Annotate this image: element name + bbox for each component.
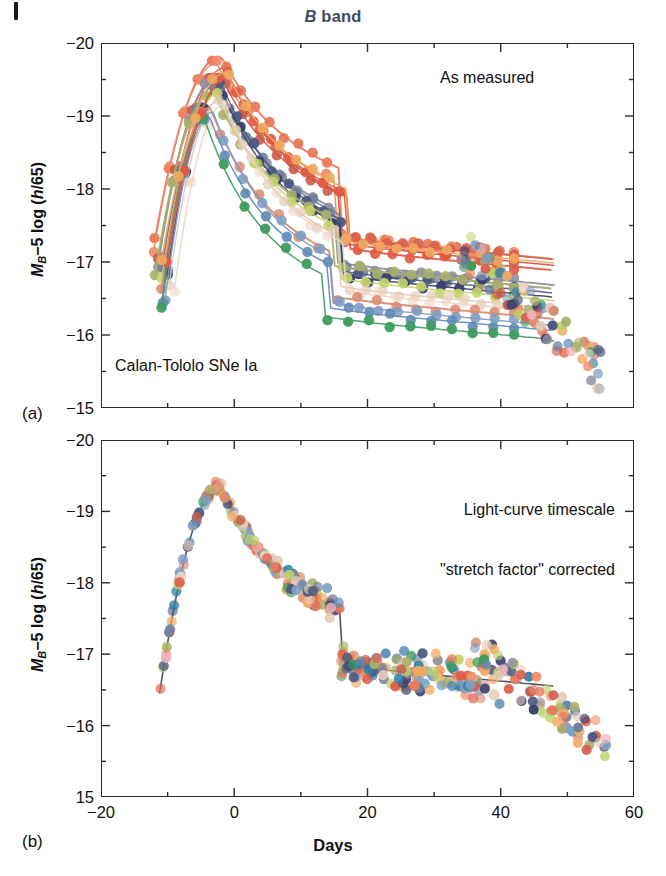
y-tick-label-a: −16 <box>39 326 94 345</box>
figure-title-band-letter: B <box>304 7 316 25</box>
y-tick-label-b: −17 <box>39 645 94 664</box>
panel-a-subtitle: Calan-Tololo SNe Ia <box>115 356 257 376</box>
y-tick-label-a: −19 <box>39 107 94 126</box>
y-axis-title-mid-b: −5 log ( <box>29 594 46 650</box>
panel-a-canvas <box>101 43 634 408</box>
y-tick-label-b: −19 <box>39 502 94 521</box>
figure-root: B band MB−5 log (h/65) MB−5 log (h/65) A… <box>0 0 666 876</box>
panel-b-annotation-line2: "stretch factor" corrected <box>330 560 615 580</box>
x-tick-label-b: −20 <box>87 803 115 822</box>
x-tick-label-b: 60 <box>625 803 643 822</box>
y-tick-label-b: −20 <box>39 431 94 450</box>
y-tick-label-a: −20 <box>39 34 94 53</box>
x-tick-label-b: 0 <box>230 803 239 822</box>
y-tick-label-b: −16 <box>39 716 94 735</box>
y-tick-label-b: −18 <box>39 573 94 592</box>
y-tick-label-a: −17 <box>39 253 94 272</box>
y-axis-title-mid: −5 log ( <box>29 199 46 255</box>
x-tick-label-b: 20 <box>358 803 376 822</box>
panel-a-annotation: As measured <box>440 68 534 88</box>
figure-title: B band <box>0 7 666 26</box>
y-tick-label-b: 15 <box>39 788 94 807</box>
figure-title-rest: band <box>317 7 362 25</box>
panel-a-plot-area <box>101 43 634 408</box>
y-tick-label-a: −15 <box>39 399 94 418</box>
panel-b-annotation-line1: Light-curve timescale <box>330 500 615 520</box>
y-axis-title-panel-b: MB−5 log (h/65) <box>29 525 48 705</box>
y-tick-label-a: −18 <box>39 180 94 199</box>
y-axis-title-panel-a: MB−5 log (h/65) <box>29 130 48 310</box>
panel-b-annotation: Light-curve timescale "stretch factor" c… <box>330 460 615 620</box>
x-tick-label-b: 40 <box>492 803 510 822</box>
x-axis-title: Days <box>0 836 666 855</box>
